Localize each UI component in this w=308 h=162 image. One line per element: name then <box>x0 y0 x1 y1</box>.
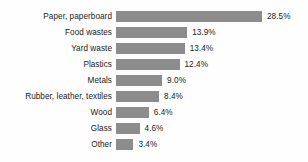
bar <box>116 75 162 86</box>
value-label: 28.5% <box>267 11 290 22</box>
value-label: 13.4% <box>190 43 213 54</box>
bar <box>116 123 140 134</box>
category-label: Yard waste <box>0 43 112 54</box>
bar <box>116 91 159 102</box>
chart-rows: Paper, paperboard28.5%Food wastes13.9%Ya… <box>0 11 308 155</box>
value-label: 13.9% <box>192 27 215 38</box>
bar-wrapper <box>116 123 140 134</box>
category-label: Metals <box>0 75 112 86</box>
bar-wrapper <box>116 107 149 118</box>
value-label: 9.0% <box>167 75 186 86</box>
bar-wrapper <box>116 59 180 70</box>
chart-row: Other3.4% <box>0 139 308 155</box>
category-label: Plastics <box>0 59 112 70</box>
category-label: Other <box>0 139 112 150</box>
category-label: Glass <box>0 123 112 134</box>
chart-row: Paper, paperboard28.5% <box>0 11 308 27</box>
value-label: 8.4% <box>164 91 183 102</box>
chart-row: Plastics12.4% <box>0 59 308 75</box>
bar-wrapper <box>116 91 159 102</box>
value-label: 12.4% <box>185 59 208 70</box>
bar <box>116 43 185 54</box>
bar <box>116 59 180 70</box>
category-label: Wood <box>0 107 112 118</box>
value-label: 4.6% <box>145 123 164 134</box>
chart-row: Metals9.0% <box>0 75 308 91</box>
chart-row: Wood6.4% <box>0 107 308 123</box>
bar <box>116 107 149 118</box>
category-label: Rubber, leather, textiles <box>0 91 112 102</box>
chart-row: Rubber, leather, textiles8.4% <box>0 91 308 107</box>
bar-wrapper <box>116 75 162 86</box>
value-label: 3.4% <box>138 139 157 150</box>
bar-wrapper <box>116 27 187 38</box>
bar-wrapper <box>116 139 133 150</box>
category-label: Paper, paperboard <box>0 11 112 22</box>
bar <box>116 27 187 38</box>
chart-row: Glass4.6% <box>0 123 308 139</box>
horizontal-bar-chart: Paper, paperboard28.5%Food wastes13.9%Ya… <box>0 0 308 162</box>
bar <box>116 11 262 22</box>
chart-row: Yard waste13.4% <box>0 43 308 59</box>
category-label: Food wastes <box>0 27 112 38</box>
bar <box>116 139 133 150</box>
chart-row: Food wastes13.9% <box>0 27 308 43</box>
bar-wrapper <box>116 11 262 22</box>
value-label: 6.4% <box>154 107 173 118</box>
bar-wrapper <box>116 43 185 54</box>
